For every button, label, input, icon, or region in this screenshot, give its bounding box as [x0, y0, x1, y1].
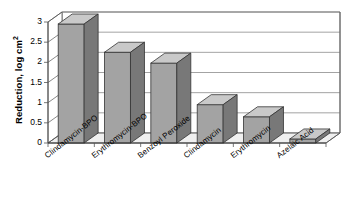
x-axis-category-labels: Clindamycin-BPOErythromycin-BPOBenzoyl P… — [0, 0, 346, 206]
x-axis-category-label: Azelaic Acid — [275, 126, 315, 160]
x-axis-category-label: Clindamycin — [182, 125, 223, 160]
x-axis-category-label: Erythromycin — [229, 124, 272, 161]
bar-chart: Reduction, log cm2 00.511.522.53 Clindam… — [0, 0, 346, 206]
